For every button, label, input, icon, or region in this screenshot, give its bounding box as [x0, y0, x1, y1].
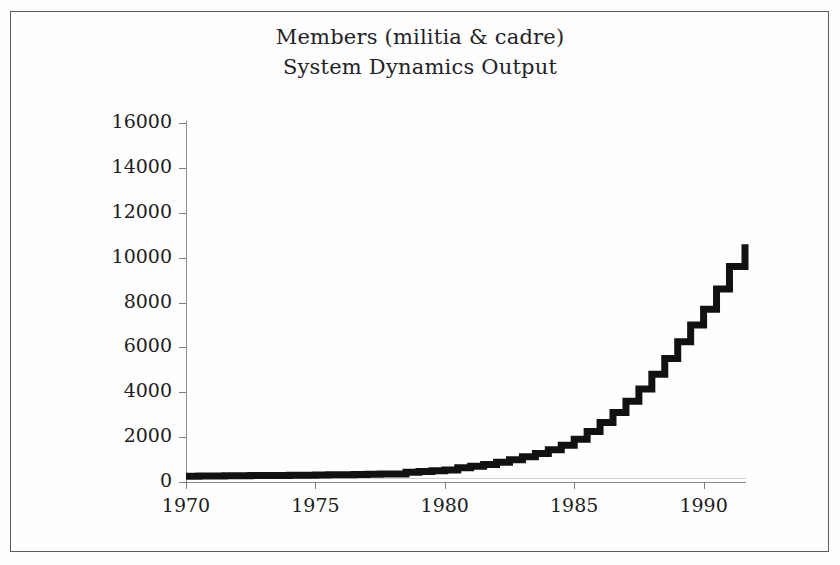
x-axis-tick-label: 1990 — [654, 494, 754, 516]
x-axis-tick-label: 1975 — [265, 494, 365, 516]
y-axis-tick-label: 6000 — [60, 334, 172, 356]
y-axis-tick-label: 8000 — [60, 290, 172, 312]
y-axis-tick-label: 14000 — [60, 155, 172, 177]
y-axis-tick — [179, 303, 186, 304]
x-axis-tick — [574, 482, 575, 489]
y-axis-tick — [179, 392, 186, 393]
x-axis-tick — [315, 482, 316, 489]
y-axis-tick-label: 2000 — [60, 424, 172, 446]
figure-page: Members (militia & cadre) System Dynamic… — [0, 0, 840, 565]
x-axis-tick-label: 1985 — [524, 494, 624, 516]
y-axis-tick-label: 16000 — [60, 110, 172, 132]
y-axis-tick — [179, 168, 186, 169]
x-axis-tick-label: 1970 — [136, 494, 236, 516]
x-axis-baseline-ghost — [186, 478, 746, 479]
x-axis-line — [186, 482, 746, 483]
y-axis-tick-label: 10000 — [60, 245, 172, 267]
y-axis-tick — [179, 347, 186, 348]
x-axis-tick — [186, 482, 187, 489]
y-axis-tick — [179, 482, 186, 483]
y-axis-tick — [179, 258, 186, 259]
y-axis-tick-label: 4000 — [60, 379, 172, 401]
x-axis-tick — [704, 482, 705, 489]
y-axis-tick — [179, 123, 186, 124]
x-axis-tick-label: 1980 — [395, 494, 495, 516]
y-axis-line — [186, 121, 187, 484]
y-axis-tick-label: 12000 — [60, 200, 172, 222]
y-axis-tick — [179, 213, 186, 214]
y-axis-tick — [179, 437, 186, 438]
x-axis-tick — [445, 482, 446, 489]
y-axis-tick-label: 0 — [60, 469, 172, 491]
